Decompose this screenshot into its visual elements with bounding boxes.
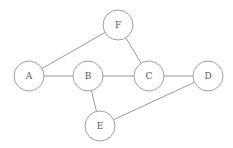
node-label: E [97, 121, 104, 131]
node-a: A [14, 61, 44, 91]
edge-b-e [92, 91, 97, 112]
node-label: F [115, 20, 121, 30]
node-e: E [85, 111, 115, 141]
edges-layer [42, 32, 194, 119]
node-f: F [103, 10, 133, 40]
node-label: B [85, 71, 92, 81]
node-label: D [204, 71, 211, 81]
node-label: A [25, 71, 33, 81]
graph-diagram: ABCDEF [0, 0, 233, 148]
node-d: D [193, 61, 223, 91]
node-b: B [73, 61, 103, 91]
node-c: C [134, 61, 164, 91]
node-label: C [146, 71, 153, 81]
edge-f-c [126, 38, 141, 63]
